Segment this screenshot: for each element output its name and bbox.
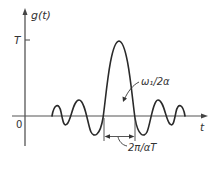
dimension-arrow-left-icon [105, 134, 111, 138]
signal-diagram: g(t) T 0 t ω₁/2α 2π/αT [0, 0, 218, 174]
lobe-width-label: 2π/αT [128, 142, 157, 153]
y-axis-label: g(t) [31, 9, 51, 22]
peak-width-label: ω₁/2α [141, 76, 170, 87]
dimension-arrow-right-icon [129, 134, 135, 138]
origin-label: 0 [16, 119, 22, 130]
signal-curve [52, 41, 185, 135]
y-tick-label-T: T [14, 34, 22, 46]
y-axis-arrow-icon [23, 8, 28, 15]
leader-arrow-icon [123, 97, 128, 103]
x-axis-label: t [200, 121, 205, 133]
x-axis [12, 114, 208, 119]
y-axis [23, 8, 31, 146]
x-axis-arrow-icon [201, 114, 208, 119]
